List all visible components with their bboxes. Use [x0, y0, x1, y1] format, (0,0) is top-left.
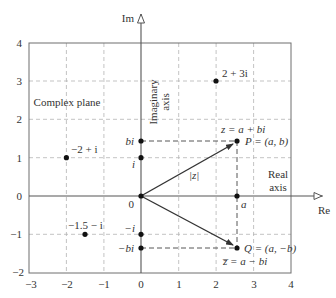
y-tick: −1 [10, 228, 22, 240]
y-tick: 3 [17, 75, 23, 87]
x-tick: −2 [61, 278, 73, 290]
y-tick: 2 [17, 113, 23, 125]
y-tick: 0 [17, 190, 23, 202]
point-P [234, 138, 239, 143]
label-neg1.5-minus-i: −1.5 − i [68, 219, 103, 231]
imaginary-axis-label-line2: axis [159, 93, 171, 111]
x-tick: −3 [25, 278, 37, 290]
vector-z-conjugate [141, 196, 233, 245]
x-tick: 1 [176, 278, 182, 290]
complex-plane-label: Complex plane [34, 96, 101, 108]
point-a [234, 193, 239, 198]
point-2-plus-3i [213, 78, 218, 83]
y-axis-label: Im [122, 12, 135, 24]
label-neg-i: −i [125, 222, 135, 234]
y-tick: 1 [17, 152, 23, 164]
point-origin [138, 193, 143, 198]
label-P: P = (a, b) [244, 135, 289, 148]
origin-label: 0 [129, 198, 135, 210]
label-bi: bi [125, 135, 134, 147]
label-Q: Q = (a, −b) [244, 242, 296, 255]
complex-plane-diagram: Re Im 4 3 2 1 0 −1 −2 −3 −2 −1 0 1 2 3 4… [0, 0, 336, 298]
label-neg-bi: −bi [118, 242, 134, 254]
y-tick: 4 [17, 37, 23, 49]
x-tick: 2 [213, 278, 219, 290]
point-neg2-plus-i [64, 155, 69, 160]
label-i: i [132, 158, 135, 170]
label-modulus: |z| [189, 169, 199, 181]
label-a: a [241, 198, 247, 210]
x-tick: −1 [98, 278, 110, 290]
projection-guides [141, 141, 237, 248]
point-neg-i [138, 232, 143, 237]
real-axis-label-line1: Real [268, 168, 288, 180]
label-z-equals: z = a + bi [220, 123, 265, 135]
real-axis-arrow-icon [314, 193, 322, 200]
y-tick-labels: 4 3 2 1 0 −1 −2 [10, 37, 24, 278]
x-tick: 0 [138, 278, 144, 290]
label-neg2-plus-i: −2 + i [71, 143, 97, 155]
imaginary-axis-arrow-icon [138, 14, 145, 23]
real-axis-label-line2: axis [269, 181, 287, 193]
point-neg1.5-minus-i [82, 232, 87, 237]
x-axis-label: Re [318, 204, 330, 216]
y-tick: −2 [12, 266, 24, 278]
x-tick: 3 [251, 278, 257, 290]
point-neg-bi [138, 245, 143, 250]
label-z-conjugate: z̅ = a − bi [222, 255, 267, 267]
point-bi [138, 138, 143, 143]
point-i [138, 155, 143, 160]
vector-z [141, 144, 233, 196]
point-Q [234, 245, 239, 250]
label-2-plus-3i: 2 + 3i [222, 67, 248, 79]
x-tick: 4 [288, 278, 294, 290]
imaginary-axis-label-line1: Imaginary [147, 79, 159, 125]
x-tick-labels: −3 −2 −1 0 1 2 3 4 [25, 278, 294, 290]
